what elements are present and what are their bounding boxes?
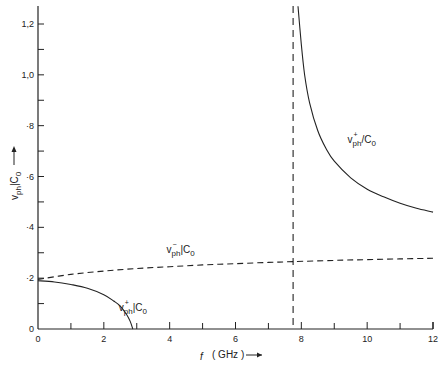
x-axis-arrowhead-icon	[257, 353, 262, 358]
y-tick-label: 0	[29, 324, 34, 334]
ticks: 0246810120·2·4·6·81,01,2	[21, 19, 438, 344]
series-curve	[298, 6, 433, 212]
y-axis-title: vph|C0	[9, 171, 23, 200]
x-tick-label: 2	[101, 334, 106, 344]
x-tick-label: 12	[428, 334, 438, 344]
y-tick-label: ·4	[26, 222, 34, 232]
x-tick-label: 4	[167, 334, 172, 344]
x-axis-title-symbol: f	[200, 351, 204, 362]
series-curve	[38, 258, 433, 279]
curve-label: v+ph/C0	[347, 131, 376, 148]
curve-label: v+ph|C0	[119, 299, 148, 316]
x-tick-label: 8	[299, 334, 304, 344]
x-tick-label: 0	[35, 334, 40, 344]
dispersion-chart: 0246810120·2·4·6·81,01,2 v+ph/C0v−ph|C0v…	[0, 0, 446, 369]
x-tick-label: 10	[362, 334, 372, 344]
y-tick-label: 1,2	[21, 19, 34, 29]
y-tick-label: ·2	[26, 273, 34, 283]
curve-labels: v+ph/C0v−ph|C0v+ph|C0	[119, 131, 377, 316]
data-series	[38, 6, 433, 329]
curve-label: v−ph|C0	[166, 241, 195, 258]
y-tick-label: ·6	[26, 172, 34, 182]
axes	[38, 6, 433, 329]
y-axis-arrowhead-icon	[12, 146, 17, 152]
y-tick-label: ·8	[26, 121, 34, 131]
x-axis-title-unit: ( GHz )	[212, 349, 244, 360]
y-tick-label: 1,0	[21, 70, 34, 80]
x-tick-label: 6	[233, 334, 238, 344]
